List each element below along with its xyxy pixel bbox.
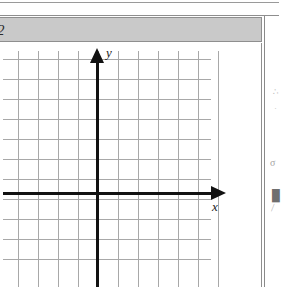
scan-artifact-mark: ⁄	[271, 203, 275, 212]
gridline-vertical	[38, 51, 39, 287]
scan-artifact-mark: ·	[274, 104, 277, 113]
gridline-horizontal	[3, 79, 211, 80]
gridline-vertical	[198, 51, 199, 287]
x-axis-arrowhead-icon	[211, 186, 226, 200]
gridline-horizontal	[3, 179, 211, 180]
gridline-vertical	[78, 51, 79, 287]
gridline-vertical	[58, 51, 59, 287]
gridline-horizontal	[3, 119, 211, 120]
gridline-vertical	[158, 51, 159, 287]
x-axis-label: x	[212, 199, 218, 215]
scan-artifact-mark: ∴	[272, 88, 279, 98]
scan-artifact-mark: σ	[270, 158, 275, 167]
gridline-horizontal	[3, 219, 211, 220]
y-axis-label: y	[106, 45, 112, 61]
gridline-vertical	[178, 51, 179, 287]
scanned-worksheet-page: 2 y x ∴ · σ █ ⁄	[0, 0, 286, 287]
scan-artifact-mark: █	[272, 191, 280, 200]
gridline-vertical	[18, 51, 19, 287]
gridline-horizontal	[3, 139, 211, 140]
gridline-horizontal	[3, 159, 211, 160]
gridline-horizontal	[3, 239, 211, 240]
gridline-vertical	[118, 51, 119, 287]
question-number-label: 2	[0, 20, 4, 40]
gridline-horizontal	[3, 199, 211, 200]
question-header-bar: 2	[0, 17, 262, 42]
page-top-rule-upper	[0, 2, 279, 3]
page-top-rule-lower	[0, 15, 279, 16]
y-axis-arrowhead-icon	[90, 48, 104, 63]
y-axis-line	[96, 61, 99, 287]
gridline-vertical	[218, 51, 219, 287]
gridline-vertical	[138, 51, 139, 287]
gridline-horizontal	[3, 99, 211, 100]
x-axis-line	[3, 192, 215, 195]
gridline-horizontal	[3, 259, 211, 260]
coordinate-graph: y x	[0, 43, 262, 287]
page-right-border-rule	[264, 16, 265, 287]
